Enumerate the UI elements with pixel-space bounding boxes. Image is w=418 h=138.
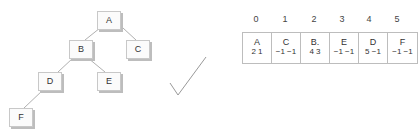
array-index: 5 (385, 14, 409, 24)
tree-node-d: D (38, 72, 62, 91)
tree-node-c: C (126, 40, 150, 59)
cell-right: −1 (345, 47, 354, 56)
array-cell: B. 4 3 (301, 33, 330, 63)
tree-node-a: A (97, 11, 121, 30)
tree-node-f: F (9, 108, 33, 127)
tree-node-e: E (97, 72, 121, 91)
cell-left: 4 (309, 47, 313, 56)
cell-right: −1 (287, 47, 296, 56)
cell-left: 5 (365, 47, 369, 56)
cell-value: E (330, 37, 358, 47)
array-index: 1 (273, 14, 297, 24)
array-cell: E −1 −1 (330, 33, 359, 63)
array-cell: F −1 −1 (388, 33, 417, 63)
cell-value: B. (301, 37, 329, 47)
array-index: 4 (357, 14, 381, 24)
cell-value: C (272, 37, 300, 47)
array-cell: C −1 −1 (272, 33, 301, 63)
checkmark-icon (168, 55, 213, 100)
cell-value: F (388, 37, 417, 47)
cell-left: −1 (334, 47, 343, 56)
cell-right: −1 (372, 47, 381, 56)
cell-right: 1 (258, 47, 262, 56)
array-cell: A 2 1 (243, 33, 272, 63)
cell-value: D (359, 37, 387, 47)
cell-left: 2 (251, 47, 255, 56)
array-index: 0 (244, 14, 268, 24)
array-cell: D 5 −1 (359, 33, 388, 63)
array-index: 2 (302, 14, 326, 24)
array-table: A 2 1 C −1 −1 B. 4 3 E −1 −1 D 5 −1 F −1… (242, 32, 418, 64)
array-index: 3 (330, 14, 354, 24)
cell-left: −1 (392, 47, 401, 56)
tree-node-b: B (69, 40, 93, 59)
cell-left: −1 (276, 47, 285, 56)
cell-value: A (243, 37, 271, 47)
cell-right: −1 (404, 47, 413, 56)
cell-right: 3 (316, 47, 320, 56)
